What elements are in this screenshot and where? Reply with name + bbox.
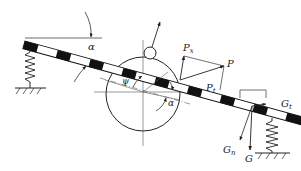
right-ground — [255, 153, 290, 159]
diagram-canvas: α ψ α Px P Pt Gt Gn G — [0, 0, 301, 171]
beam-pointer-arc — [74, 66, 86, 82]
alpha-arc-arrow-mid — [156, 98, 166, 111]
Px-to-P-line — [184, 56, 224, 66]
G-component-box — [240, 90, 266, 98]
Gt-label: Gt — [281, 98, 292, 111]
right-spring — [266, 118, 278, 153]
force-diagram: α ψ α Px P Pt Gt Gn G — [0, 0, 301, 171]
center-ray-line — [143, 92, 180, 100]
alpha-label-mid: α — [168, 98, 174, 108]
P-label: P — [226, 58, 234, 69]
force-Px-arrow — [180, 56, 184, 80]
force-G-arrow — [250, 106, 252, 150]
alpha-label-top: α — [88, 41, 95, 52]
Gn-label: Gn — [223, 144, 236, 157]
psi-label: ψ — [122, 76, 130, 86]
pivot-circle — [144, 47, 156, 59]
left-ground — [15, 88, 46, 94]
force-Gn-arrow — [240, 106, 252, 140]
force-P-arrow — [180, 66, 224, 80]
vertical-force-arrow — [152, 22, 160, 47]
alpha-arc-arrow — [85, 12, 91, 37]
inclined-beam — [23, 41, 301, 125]
Px-label: Px — [182, 42, 194, 55]
G-label: G — [245, 153, 253, 164]
P-to-Pt-line — [220, 66, 224, 90]
left-spring — [25, 49, 35, 88]
